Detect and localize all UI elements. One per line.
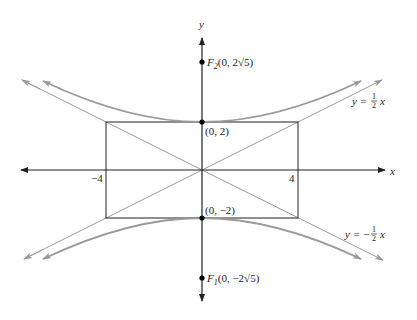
svg-text:x: x bbox=[379, 95, 385, 107]
asymptote-negative-label: y = − 1 2 x bbox=[344, 225, 385, 243]
focus-bottom-dot bbox=[199, 275, 204, 280]
vertex-bottom-label: (0, −2) bbox=[205, 204, 235, 217]
hyperbola-figure: y x −4 4 (0, 2) (0, −2) F2(0, 2√5) F1(0,… bbox=[0, 0, 417, 320]
asymptote-negative-left-arrow bbox=[24, 250, 42, 259]
hyperbola-upper-branch-right bbox=[202, 81, 361, 122]
y-axis-label: y bbox=[198, 18, 204, 30]
focus-top-dot bbox=[199, 59, 204, 64]
svg-text:F1(0, −2√5): F1(0, −2√5) bbox=[206, 272, 260, 287]
svg-text:x: x bbox=[379, 228, 385, 240]
svg-text:1: 1 bbox=[372, 92, 376, 101]
vertex-top-dot bbox=[199, 119, 204, 124]
svg-text:F2(0, 2√5): F2(0, 2√5) bbox=[206, 56, 253, 71]
svg-text:1: 1 bbox=[372, 225, 376, 234]
axes bbox=[21, 38, 385, 301]
vertex-top-label: (0, 2) bbox=[205, 125, 229, 138]
vertex-bottom-dot bbox=[199, 215, 204, 220]
hyperbola-upper-branch-left bbox=[43, 81, 202, 122]
svg-text:y = −: y = − bbox=[344, 228, 370, 240]
svg-text:y =: y = bbox=[351, 95, 367, 107]
svg-text:2: 2 bbox=[372, 101, 376, 110]
x-axis-label: x bbox=[389, 165, 395, 177]
focus-bottom-label: F1(0, −2√5) bbox=[206, 272, 260, 287]
x-tick-neg4: −4 bbox=[91, 172, 103, 184]
hyperbola-lower-branch-left bbox=[43, 218, 202, 259]
asymptote-positive-left-arrow bbox=[22, 80, 40, 89]
asymptote-positive-label: y = 1 2 x bbox=[351, 92, 385, 110]
svg-text:2: 2 bbox=[372, 234, 376, 243]
asymptote-positive-ext bbox=[22, 80, 202, 170]
focus-top-label: F2(0, 2√5) bbox=[206, 56, 253, 71]
hyperbola-lower-branch-right bbox=[202, 218, 361, 259]
x-tick-4: 4 bbox=[289, 172, 295, 184]
